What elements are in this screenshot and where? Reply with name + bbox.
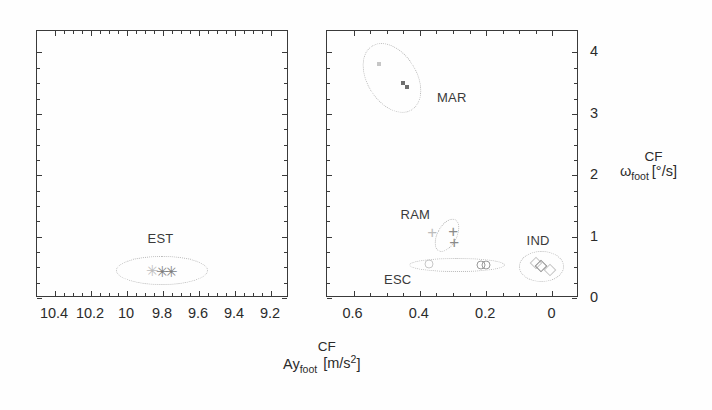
x-axis-minor-tick (370, 293, 371, 296)
cluster-label-mar: MAR (437, 90, 467, 105)
y-axis-tick (327, 175, 332, 176)
x-axis-minor-tick (109, 31, 110, 34)
x-axis-title-units-close: ] (356, 355, 360, 371)
y-axis-minor-tick (327, 129, 330, 130)
x-axis-minor-tick (109, 293, 110, 296)
data-point-plus: + (427, 223, 437, 240)
y-axis-minor-tick (284, 221, 287, 222)
y-axis-minor-tick (327, 160, 330, 161)
x-axis-title-subscript: foot (300, 362, 318, 374)
y-axis-minor-tick (574, 129, 577, 130)
x-axis-minor-tick (253, 293, 254, 296)
x-axis-minor-tick (453, 293, 454, 296)
x-axis-tick (199, 31, 200, 36)
x-axis-minor-tick (154, 293, 155, 296)
x-axis-minor-tick (64, 293, 65, 296)
y-axis-minor-tick (574, 160, 577, 161)
y-axis-minor-tick (284, 160, 287, 161)
y-axis-minor-tick (284, 267, 287, 268)
data-point-plus: + (449, 233, 459, 250)
x-axis-minor-tick (453, 31, 454, 34)
x-axis-tick-label: 9.6 (188, 305, 208, 321)
y-axis-tick (327, 52, 332, 53)
x-axis-minor-tick (519, 31, 520, 34)
y-axis-tick-label: 4 (590, 43, 598, 59)
y-axis-title: CF ωfoot[°/s] (620, 150, 677, 181)
y-axis-tick (327, 114, 332, 115)
x-axis-title-units: [m/s (323, 355, 350, 371)
y-axis-tick-label: 1 (590, 228, 598, 244)
x-axis-tick (55, 31, 56, 36)
y-axis-tick (327, 237, 332, 238)
y-axis-minor-tick (327, 206, 330, 207)
y-axis-tick (282, 114, 287, 115)
y-axis-tick (572, 298, 577, 299)
x-axis-minor-tick (145, 31, 146, 34)
cluster-label-esc: ESC (384, 272, 411, 287)
y-axis-minor-tick (327, 83, 330, 84)
x-axis-tick (163, 31, 164, 36)
x-axis-tick (91, 31, 92, 36)
x-axis-minor-tick (470, 31, 471, 34)
y-axis-tick-label: 0 (590, 289, 598, 305)
y-axis-tick (37, 52, 42, 53)
data-point-circle (482, 261, 491, 270)
y-axis-minor-tick (574, 83, 577, 84)
y-axis-minor-tick (284, 83, 287, 84)
x-axis-minor-tick (208, 293, 209, 296)
y-axis-minor-tick (37, 145, 40, 146)
x-axis-minor-tick (262, 293, 263, 296)
x-axis-minor-tick (262, 31, 263, 34)
y-axis-minor-tick (37, 68, 40, 69)
x-axis-tick-label: 0.2 (475, 305, 495, 321)
y-axis-minor-tick (574, 221, 577, 222)
x-axis-tick (420, 291, 421, 296)
x-axis-minor-tick (118, 293, 119, 296)
y-axis-tick-label: 3 (590, 105, 598, 121)
x-axis-tick (235, 31, 236, 36)
y-axis-minor-tick (327, 145, 330, 146)
x-axis-tick-label: 9.4 (224, 305, 244, 321)
x-axis-tick-label: 10.2 (76, 305, 104, 321)
y-axis-title-units: [°/s] (652, 163, 677, 179)
y-axis-title-superscript: CF (630, 150, 677, 164)
x-axis-tick (235, 291, 236, 296)
x-axis-tick (127, 291, 128, 296)
x-axis-title-main: Ay (283, 355, 300, 371)
y-axis-minor-tick (574, 283, 577, 284)
x-axis-minor-tick (181, 31, 182, 34)
y-axis-tick (282, 298, 287, 299)
cluster-label-ind: IND (527, 233, 550, 248)
y-axis-minor-tick (574, 206, 577, 207)
y-axis-minor-tick (284, 252, 287, 253)
x-axis-tick (91, 291, 92, 296)
y-axis-tick (572, 52, 577, 53)
x-axis-tick-label: 0.4 (409, 305, 429, 321)
x-axis-tick (486, 31, 487, 36)
y-axis-tick (37, 114, 42, 115)
y-axis-minor-tick (574, 68, 577, 69)
x-axis-minor-tick (217, 293, 218, 296)
y-axis-minor-tick (284, 191, 287, 192)
x-axis-minor-tick (100, 31, 101, 34)
x-axis-tick-label: 0.6 (342, 305, 362, 321)
x-axis-minor-tick (217, 31, 218, 34)
x-axis-minor-tick (370, 31, 371, 34)
x-axis-minor-tick (145, 293, 146, 296)
y-axis-tick (282, 52, 287, 53)
x-axis-minor-tick (536, 293, 537, 296)
data-point-dot (377, 62, 381, 66)
x-axis-minor-tick (154, 31, 155, 34)
x-axis-minor-tick (172, 31, 173, 34)
x-axis-minor-tick (100, 293, 101, 296)
x-axis-minor-tick (536, 31, 537, 34)
x-axis-tick (354, 31, 355, 36)
y-axis-minor-tick (327, 99, 330, 100)
x-axis-minor-tick (403, 31, 404, 34)
x-axis-minor-tick (82, 293, 83, 296)
x-axis-minor-tick (73, 31, 74, 34)
x-axis-minor-tick (244, 293, 245, 296)
y-axis-minor-tick (37, 221, 40, 222)
x-axis-tick (55, 291, 56, 296)
y-axis-tick (37, 237, 42, 238)
